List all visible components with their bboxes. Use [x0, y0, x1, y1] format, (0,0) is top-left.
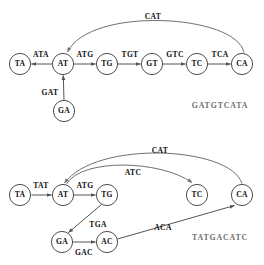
edge-label-tga: TGA	[89, 220, 107, 229]
node-at-top[interactable]: AT	[52, 53, 73, 74]
edge-label-ata: ATA	[33, 50, 49, 59]
edge-ca-to-at-arc	[68, 20, 245, 52]
node-label: TC	[192, 59, 203, 68]
node-label: CA	[236, 190, 248, 199]
edge-label-gtc: GTC	[166, 50, 183, 59]
edge-label-atg-bottom: ATG	[77, 181, 94, 190]
edge-label-tca: TCA	[212, 50, 229, 59]
node-tg-bottom[interactable]: TG	[96, 184, 117, 205]
node-ta-bottom[interactable]: TA	[9, 184, 30, 205]
edge-label-gat: GAT	[42, 88, 59, 97]
debruijn-graph-figure: TA AT TG GT TC CA	[0, 0, 264, 265]
node-label: CA	[236, 59, 248, 68]
node-label: TA	[15, 59, 26, 68]
node-label: AC	[101, 237, 112, 246]
edge-label-aca: ACA	[154, 223, 172, 232]
node-tc-top[interactable]: TC	[186, 53, 207, 74]
node-label: GA	[58, 106, 70, 115]
node-label: AT	[58, 59, 68, 68]
node-label: TG	[101, 190, 112, 199]
edge-label-tgt: TGT	[122, 50, 139, 59]
figure-canvas: TA AT TG GT TC CA	[0, 0, 264, 265]
node-label: TA	[15, 190, 26, 199]
node-label: AT	[58, 190, 68, 199]
result-sequence-bottom: TATGACATC	[192, 233, 248, 242]
node-at-bottom[interactable]: AT	[52, 184, 73, 205]
edge-label-atg: ATG	[77, 50, 94, 59]
node-ac-bottom[interactable]: AC	[96, 231, 117, 252]
node-ca-top[interactable]: CA	[231, 53, 252, 74]
edge-label-gac: GAC	[75, 248, 93, 257]
edge-label-cat-top: CAT	[145, 12, 161, 21]
node-ga-bottom[interactable]: GA	[51, 231, 72, 252]
edge-label-cat-bottom: CAT	[152, 146, 168, 155]
node-ca-bottom[interactable]: CA	[231, 184, 252, 205]
edge-label-tat: TAT	[33, 181, 48, 190]
node-label: GA	[56, 237, 68, 246]
node-ta-top[interactable]: TA	[9, 53, 30, 74]
node-tg-top[interactable]: TG	[96, 53, 117, 74]
edge-label-atc: ATC	[125, 168, 141, 177]
node-label: GT	[146, 59, 157, 68]
node-label: TG	[101, 59, 112, 68]
result-sequence-top: GATGTCATA	[192, 101, 249, 110]
edge-ga-to-at	[63, 76, 64, 101]
node-ga-top[interactable]: GA	[53, 100, 74, 121]
node-gt-top[interactable]: GT	[141, 53, 162, 74]
node-label: TC	[192, 190, 203, 199]
node-tc-bottom[interactable]: TC	[186, 184, 207, 205]
